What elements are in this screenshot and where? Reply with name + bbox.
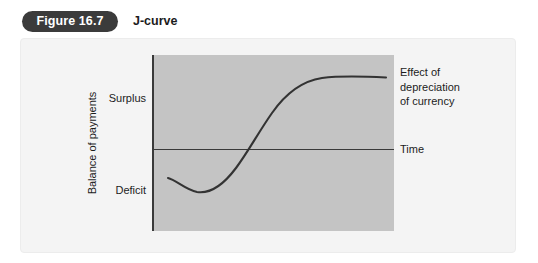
figure-panel	[20, 38, 516, 253]
figure-number-badge: Figure 16.7	[22, 11, 118, 32]
figure-title: J-curve	[133, 13, 177, 30]
figure-header: Figure 16.7 J-curve	[0, 0, 538, 38]
